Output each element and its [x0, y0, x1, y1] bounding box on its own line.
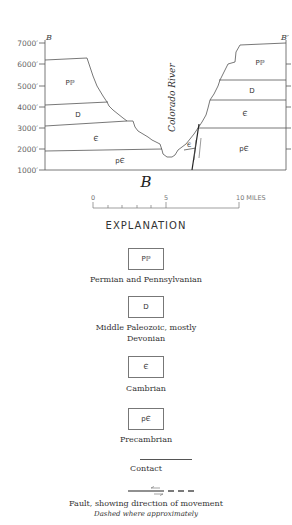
unit-left-pc: pЄ: [115, 157, 124, 165]
elevation-5000: 5000′: [17, 82, 38, 91]
unit-right-d: D: [249, 87, 254, 95]
scale-label-10-miles: 10 MILES: [236, 194, 266, 202]
explanation-heading: EXPLANATION: [0, 220, 292, 231]
unit-right-c: Є: [243, 110, 248, 118]
elevation-2000: 2000′: [17, 145, 38, 154]
elevation-3000: 3000′: [17, 124, 38, 133]
legend-box-c: Є: [128, 356, 164, 378]
legend-box-pc: pЄ: [128, 408, 164, 430]
unit-left-c: Є: [94, 135, 99, 143]
unit-fault-block-c: Є: [187, 141, 191, 148]
scale-label-0: 0: [91, 194, 95, 202]
unit-right-pp: Pℙ: [255, 59, 264, 67]
legend-label-pc: Precambrian: [0, 434, 292, 445]
endpoint-b-left: B: [45, 33, 52, 42]
unit-left-d: D: [75, 111, 80, 119]
unit-left-pp: Pℙ: [65, 79, 74, 87]
elevation-7000: 7000′: [17, 39, 38, 48]
scale-label-5: 5: [164, 194, 168, 202]
contact-left-pp-d: [45, 102, 108, 105]
legend-label-d-line1: Middle Paleozoic, mostly: [0, 322, 292, 333]
elevation-4000: 4000′: [17, 103, 38, 112]
legend-label-c: Cambrian: [0, 383, 292, 394]
legend-label-pp: Permian and Pennsylvanian: [0, 274, 292, 285]
unit-right-pc: pЄ: [239, 145, 248, 153]
fault-symbol: [128, 485, 208, 497]
river-label: Colorado River: [167, 63, 177, 132]
fault-block-contact: [184, 148, 196, 150]
section-title: B: [0, 173, 292, 191]
legend-label-d-line2: Devonian: [0, 333, 292, 344]
elevation-6000: 6000′: [17, 60, 38, 69]
legend-box-pp: Pℙ: [128, 248, 164, 270]
legend-label-fault-dashed: Dashed where approximately: [0, 509, 292, 520]
legend-box-d: D: [128, 296, 164, 318]
contact-line-symbol: [140, 459, 192, 460]
legend-label-contact: Contact: [0, 463, 292, 474]
cross-section-diagram: B B′ 7000′ 6000′ 5000′ 4000′ 3000′ 2000′…: [0, 0, 292, 190]
contact-left-d-c: [45, 121, 127, 126]
endpoint-b-right: B′: [280, 33, 289, 42]
scale-bar: 0 5 10 MILES: [0, 190, 292, 218]
legend-label-fault: Fault, showing direction of movement: [0, 498, 292, 509]
contact-left-c-pc: [45, 149, 162, 151]
